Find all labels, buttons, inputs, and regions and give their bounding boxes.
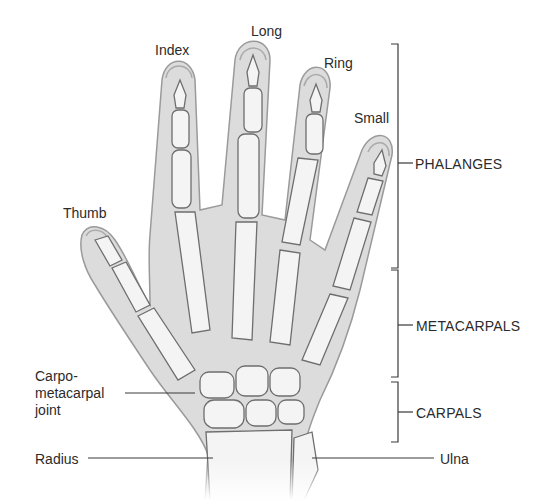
- label-carpometacarpal-line2: metacarpal: [35, 385, 115, 402]
- label-carpometacarpal-joint: Carpo- metacarpal joint: [35, 368, 115, 419]
- label-carpals: CARPALS: [416, 405, 482, 421]
- carpals-bracket: [391, 382, 398, 442]
- label-carpometacarpal-line1: Carpo-: [35, 368, 115, 385]
- label-small: Small: [354, 110, 389, 126]
- label-ring: Ring: [324, 55, 353, 71]
- brackets: [391, 44, 413, 442]
- label-metacarpals: METACARPALS: [416, 318, 520, 334]
- label-phalanges: PHALANGES: [415, 156, 502, 172]
- label-radius: Radius: [35, 451, 79, 467]
- label-long: Long: [251, 23, 282, 39]
- hand-anatomy-diagram: Index Long Ring Small Thumb PHALANGES ME…: [0, 0, 555, 500]
- label-ulna: Ulna: [440, 451, 469, 467]
- label-thumb: Thumb: [63, 205, 107, 221]
- hand-illustration: [0, 0, 555, 500]
- metacarpals-bracket: [391, 270, 398, 377]
- label-index: Index: [155, 42, 189, 58]
- label-carpometacarpal-line3: joint: [35, 402, 115, 419]
